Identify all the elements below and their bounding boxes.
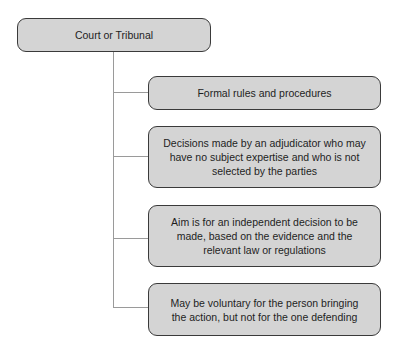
child-node-label: Decisions made by an adjudicator who may… <box>161 136 368 178</box>
child-node-4: May be voluntary for the person bringing… <box>148 283 381 336</box>
trunk-connector <box>113 52 114 308</box>
root-node-label: Court or Tribunal <box>75 28 153 42</box>
child-node-1: Formal rules and procedures <box>148 76 381 110</box>
child-node-2: Decisions made by an adjudicator who may… <box>148 126 381 188</box>
child-node-label: Aim is for an independent decision to be… <box>171 215 358 257</box>
branch-connector-4 <box>113 307 148 308</box>
root-node: Court or Tribunal <box>17 18 211 52</box>
child-node-label: May be voluntary for the person bringing… <box>163 296 366 324</box>
child-node-label: Formal rules and procedures <box>197 86 331 100</box>
branch-connector-2 <box>113 156 148 157</box>
child-node-3: Aim is for an independent decision to be… <box>148 205 381 267</box>
branch-connector-1 <box>113 92 148 93</box>
branch-connector-3 <box>113 238 148 239</box>
